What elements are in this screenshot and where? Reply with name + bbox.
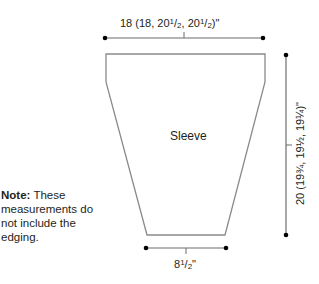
- note-heading: Note:: [1, 189, 30, 201]
- measurement-note: Note: These measurements do not include …: [1, 188, 99, 244]
- piece-label: Sleeve: [170, 130, 207, 143]
- bottom-width-dimension: [144, 246, 229, 254]
- bottom-width-label: 81/2": [174, 256, 196, 273]
- top-width-dimension: [103, 32, 266, 40]
- length-dimension: [284, 53, 292, 238]
- length-label: 20 (19¾, 19½, 19¼)": [294, 102, 307, 205]
- sleeve-shape: [106, 54, 265, 235]
- top-width-label: 18 (18, 201/2, 201/2)": [120, 15, 219, 32]
